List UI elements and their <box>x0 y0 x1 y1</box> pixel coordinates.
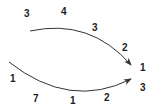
label-top-mid-4: 4 <box>61 7 67 17</box>
label-left-1: 1 <box>10 74 16 84</box>
label-top-left-3: 3 <box>24 9 30 19</box>
label-bottom-2: 2 <box>104 93 110 103</box>
label-right-3: 3 <box>140 83 146 93</box>
lower-arrow <box>9 62 131 91</box>
label-right-1: 1 <box>140 63 146 73</box>
label-upper-mid-3: 3 <box>92 23 98 33</box>
upper-arrow <box>30 28 131 65</box>
label-bottom-7: 7 <box>33 94 39 104</box>
label-bottom-1: 1 <box>70 96 76 106</box>
label-upper-right-2: 2 <box>122 43 128 53</box>
